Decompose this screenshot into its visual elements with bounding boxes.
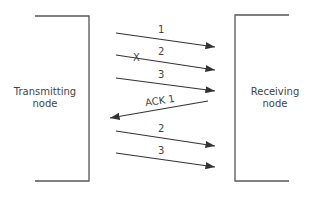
transmitting-line1: Transmitting — [5, 86, 85, 98]
receiving-node-label: Receiving node — [242, 86, 308, 110]
arrow-2-resend — [116, 131, 215, 146]
arrow-3-resend — [116, 153, 215, 167]
msg-label-1: 1 — [158, 24, 164, 35]
msg-label-3: 3 — [158, 69, 164, 80]
msg-label-2-resend: 2 — [158, 123, 164, 134]
arrow-1 — [116, 33, 215, 47]
receiving-line2: node — [242, 98, 308, 110]
msg-label-2: 2 — [158, 46, 164, 57]
msg-label-3-resend: 3 — [158, 145, 164, 156]
lost-marker: X — [133, 52, 140, 63]
arrow-2-lost — [116, 55, 215, 70]
transmitting-line2: node — [5, 98, 85, 110]
receiving-line1: Receiving — [242, 86, 308, 98]
arrow-3 — [116, 78, 215, 91]
transmitting-node-label: Transmitting node — [5, 86, 85, 110]
